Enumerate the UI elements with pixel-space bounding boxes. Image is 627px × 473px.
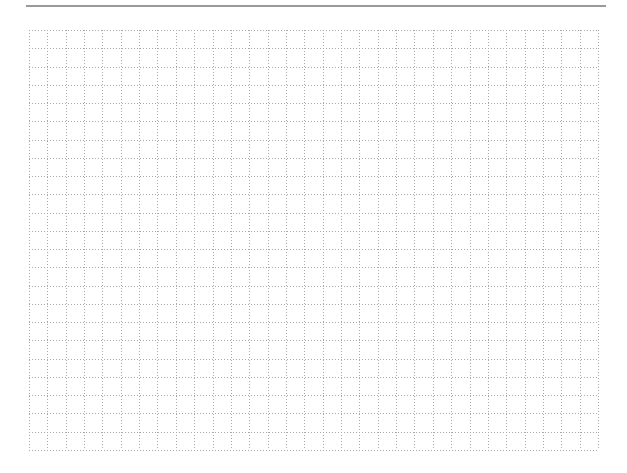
dotted-grid bbox=[29, 30, 598, 450]
grid-lines bbox=[29, 30, 598, 450]
top-rule-line bbox=[26, 5, 606, 7]
graph-paper-page bbox=[0, 0, 627, 473]
